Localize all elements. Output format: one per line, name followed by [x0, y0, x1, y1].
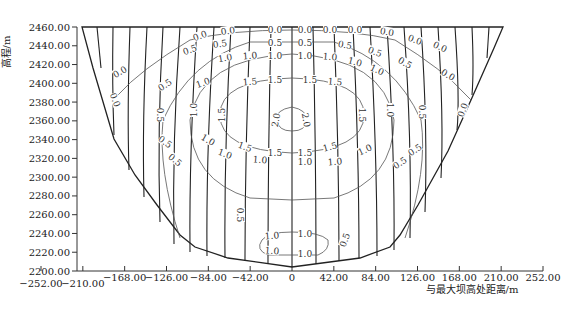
contour-value-label: 1.5: [268, 148, 283, 158]
contour-value-label: 0.5: [166, 152, 184, 169]
x-tick-label: 126.00: [400, 272, 435, 283]
x-tick-label: −252.00: [19, 278, 62, 289]
x-tick-label: 0: [289, 272, 295, 283]
contour-value-label: 1.0: [268, 51, 283, 61]
contour-value-label: 0.5: [338, 231, 352, 248]
contour-value-label: 1.0: [217, 147, 234, 161]
contour-value-label: 1.5: [237, 140, 254, 154]
contour-value-label: 0.5: [298, 38, 313, 48]
contour-value-label: 0.0: [220, 25, 236, 37]
y-tick-label: 2320.00: [29, 153, 70, 164]
contour-value-label: 0.0: [379, 26, 395, 38]
contour-value-label: 0.5: [235, 208, 245, 223]
contour-value-label: 1.0: [298, 157, 313, 167]
contour-value-label: 0.0: [439, 67, 457, 83]
contour-value-label: 1.0: [217, 52, 233, 64]
contour-value-label: 1.5: [298, 148, 313, 158]
contour-value-label: 1.5: [217, 108, 227, 123]
contour-chart: 2200.002220.002240.002260.002280.002300.…: [0, 0, 577, 311]
y-tick-label: 2220.00: [29, 247, 70, 258]
x-tick-label: 252.00: [526, 272, 561, 283]
contour-value-label: 1.5: [327, 76, 342, 87]
contour-value-label: 1.0: [195, 76, 212, 90]
contour-value-label: 0.5: [406, 142, 424, 159]
y-tick-label: 2460.00: [29, 22, 70, 33]
contour-value-label: 1.0: [322, 51, 337, 62]
y-axis-label: 高程/m: [0, 35, 12, 68]
contour-value-label: 1.0: [385, 103, 395, 118]
x-tick-label: 210.00: [484, 272, 519, 283]
y-tick-label: 2340.00: [29, 134, 70, 145]
contour-value-label: 1.0: [189, 103, 199, 118]
x-tick-label: −168.00: [103, 272, 146, 283]
contour-value-label: 1.5: [303, 75, 318, 85]
contour-value-label: 2.0: [300, 112, 312, 128]
contour-value-label: 0.0: [108, 92, 122, 109]
x-tick-label: −210.00: [61, 278, 104, 289]
y-tick-label: 2380.00: [29, 97, 70, 108]
y-tick-label: 2400.00: [29, 78, 70, 89]
y-axis-ticks: 2200.002220.002240.002260.002280.002300.…: [29, 22, 77, 277]
y-tick-label: 2280.00: [29, 190, 70, 201]
contour-value-label: 1.0: [327, 156, 342, 167]
contour-value-label: 0.5: [156, 77, 174, 94]
x-tick-label: −84.00: [190, 272, 227, 283]
x-tick-label: 168.00: [442, 272, 477, 283]
contour-value-label: 0.0: [323, 25, 338, 35]
contour-value-label: 0.5: [212, 38, 228, 50]
contour-value-label: 0.0: [268, 25, 283, 35]
contour-value-label: 1.0: [368, 62, 385, 77]
contour-labels: 0.00.00.00.00.00.00.00.00.00.00.00.00.00…: [108, 25, 470, 259]
contour-value-label: 1.0: [264, 245, 279, 256]
contour-value-label: 1.0: [199, 132, 217, 148]
contour-value-label: 0.5: [155, 108, 165, 123]
contour-value-label: 1.0: [252, 154, 267, 165]
contour-value-label: 1.5: [357, 108, 367, 123]
x-tick-label: 42.00: [320, 272, 349, 283]
contour-value-label: 0.0: [192, 29, 209, 43]
contour-value-label: 1.0: [356, 142, 373, 157]
contour-value-label: 0.5: [268, 38, 283, 48]
y-tick-label: 2420.00: [29, 59, 70, 70]
contour-value-label: 0.5: [396, 55, 414, 71]
y-tick-label: 2240.00: [29, 228, 70, 239]
x-tick-label: 84.00: [361, 272, 390, 283]
contour-value-label: 1.0: [347, 55, 364, 68]
contour-value-label: 0.0: [298, 25, 313, 35]
contour-value-label: 0.0: [111, 64, 129, 80]
y-tick-label: 2260.00: [29, 209, 70, 220]
contour-value-label: 1.5: [242, 76, 257, 87]
contour-value-label: 1.0: [298, 51, 313, 61]
contour-value-label: 0.0: [431, 39, 448, 54]
contour-value-label: 1.0: [298, 229, 313, 239]
contour-value-label: 1.5: [268, 75, 283, 85]
contour-value-label: 0.5: [367, 45, 384, 59]
x-axis-label: 与最大坝高处距离/m: [426, 283, 519, 295]
contour-value-label: 1.0: [298, 249, 313, 259]
y-tick-label: 2200.00: [29, 266, 70, 277]
contour-value-label: 0.5: [337, 39, 353, 51]
contour-value-label: 1.0: [242, 50, 257, 61]
x-tick-label: −42.00: [232, 272, 269, 283]
y-tick-label: 2360.00: [29, 115, 70, 126]
y-tick-label: 2300.00: [29, 172, 70, 183]
y-tick-label: 2440.00: [29, 40, 70, 51]
contour-value-label: 0.5: [417, 105, 427, 120]
contour-value-label: 1.0: [264, 230, 279, 241]
contour-value-label: 0.0: [348, 25, 363, 35]
contour-value-label: 2.0: [270, 112, 282, 128]
x-tick-label: −126.00: [145, 272, 188, 283]
contour-value-label: 1.5: [322, 140, 339, 153]
